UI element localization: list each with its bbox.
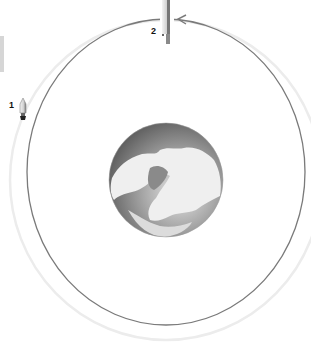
- rocket-1-icon: [20, 98, 26, 120]
- position-label-1: 1: [9, 101, 14, 110]
- rocket-2-icon: [162, 0, 170, 44]
- orbit-graphic: [0, 0, 311, 342]
- position-label-2: 2: [151, 27, 156, 36]
- orbit-diagram: 1 2: [0, 0, 311, 342]
- earth-globe-icon: [109, 123, 223, 237]
